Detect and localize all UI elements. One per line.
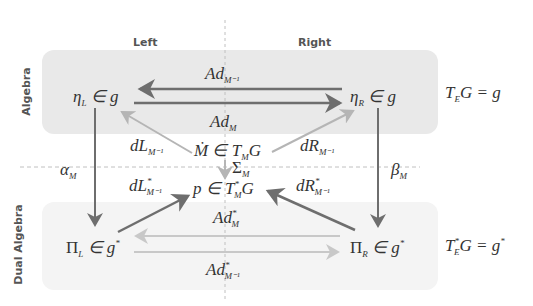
label-ad-star-m-inverse: Ad*M⁻¹ xyxy=(206,260,240,281)
column-label-right: Right xyxy=(298,36,331,49)
label-alpha-m: αM xyxy=(60,160,76,181)
label-ad-m: AdM xyxy=(210,112,236,133)
node-pi-right: ΠR ∈ g* xyxy=(350,237,404,259)
row-label-dual-algebra: Dual Algebra xyxy=(12,204,25,284)
node-eta-left: ηL ∈ g xyxy=(73,86,118,108)
node-pi-left: ΠL ∈ g* xyxy=(66,237,120,259)
label-dl-m-inverse: dLM⁻¹ xyxy=(130,136,163,157)
label-dr-star-m-inverse: dR*M⁻¹ xyxy=(296,176,330,197)
label-ad-m-inverse: AdM⁻¹ xyxy=(205,64,239,85)
node-mdot: Ṁ ∈ TMG xyxy=(194,140,261,162)
node-eta-right: ηR ∈ g xyxy=(350,86,396,108)
identity-tangent-algebra: TEG = g xyxy=(445,83,501,104)
label-sigma-m: ΣM xyxy=(232,158,249,179)
node-p: p ∈ T*MG xyxy=(193,178,254,200)
label-dl-star-m-inverse: dL*M⁻¹ xyxy=(129,176,162,197)
label-dr-m-inverse: dRM⁻¹ xyxy=(300,136,334,157)
identity-cotangent-dual-algebra: T*EG = g* xyxy=(445,236,505,257)
diagram-arrows xyxy=(0,0,533,306)
column-label-left: Left xyxy=(133,36,158,49)
label-ad-star-m: Ad*M xyxy=(213,208,239,229)
label-beta-m: βM xyxy=(391,160,407,181)
row-label-algebra: Algebra xyxy=(20,67,33,115)
